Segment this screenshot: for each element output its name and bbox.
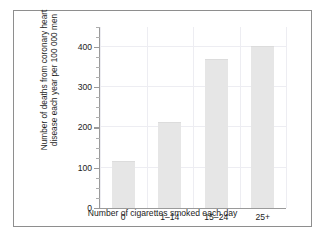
bar bbox=[251, 46, 274, 208]
y-axis-tick-minor bbox=[96, 198, 100, 199]
y-axis-tick-minor bbox=[96, 37, 100, 38]
y-axis-tick-label: 100 bbox=[78, 163, 92, 173]
gridline-vertical bbox=[147, 27, 148, 208]
y-axis-tick-major bbox=[94, 168, 100, 169]
gridline-vertical bbox=[240, 27, 241, 208]
y-axis-tick-label: 200 bbox=[78, 122, 92, 132]
y-axis-tick-label: 400 bbox=[78, 42, 92, 52]
y-axis-tick-minor bbox=[96, 188, 100, 189]
y-axis-tick-major bbox=[94, 87, 100, 88]
bar bbox=[112, 161, 135, 208]
y-axis-tick-label: 300 bbox=[78, 82, 92, 92]
y-axis-tick-minor bbox=[96, 67, 100, 68]
y-axis-title-line-1: Number of deaths from coronary heart bbox=[39, 10, 49, 151]
y-axis-tick-minor bbox=[96, 27, 100, 28]
gridline-vertical bbox=[286, 27, 287, 208]
y-axis-tick-major bbox=[94, 127, 100, 128]
y-axis-tick-minor bbox=[96, 148, 100, 149]
gridline-vertical bbox=[193, 27, 194, 208]
bar bbox=[205, 59, 228, 208]
gridline-vertical bbox=[100, 27, 101, 208]
chart-figure-frame: Number of deaths from coronary heart dis… bbox=[13, 10, 312, 227]
y-axis-tick-minor bbox=[96, 77, 100, 78]
y-axis-tick-major bbox=[94, 47, 100, 48]
y-axis-title: Number of deaths from coronary heart dis… bbox=[32, 0, 66, 160]
x-axis-title: Number of cigarettes smoked each day bbox=[14, 208, 311, 218]
y-axis-tick-minor bbox=[96, 117, 100, 118]
y-axis-tick-minor bbox=[96, 107, 100, 108]
bar bbox=[158, 122, 181, 208]
y-axis-tick-minor bbox=[96, 57, 100, 58]
y-axis-title-line-2: disease each year per 100 000 men bbox=[49, 14, 59, 146]
y-axis-tick-minor bbox=[96, 158, 100, 159]
y-axis-tick-minor bbox=[96, 97, 100, 98]
y-axis-tick-minor bbox=[96, 178, 100, 179]
y-axis-tick-minor bbox=[96, 138, 100, 139]
data-area: 0100200300400 01–1415–2425+ bbox=[100, 27, 286, 208]
plot-area: 0100200300400 01–1415–2425+ bbox=[99, 27, 286, 209]
